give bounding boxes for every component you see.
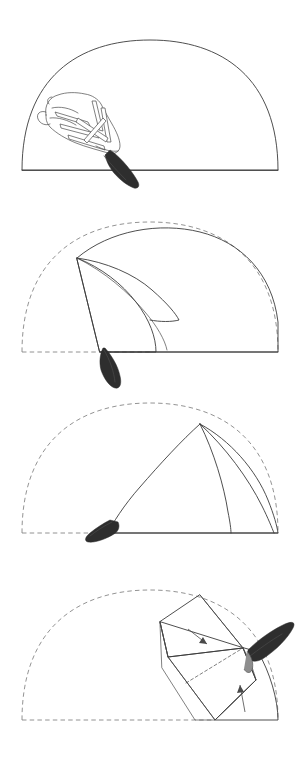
- folding-sequence-figure: panel-unfolded-with-figure panel-first-f…: [0, 0, 301, 761]
- illustration-canvas: panel-unfolded-with-figure panel-first-f…: [0, 0, 301, 761]
